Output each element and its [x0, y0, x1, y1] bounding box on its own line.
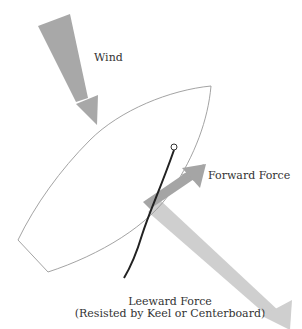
mast-icon: [171, 144, 177, 150]
diagram-svg: [0, 0, 302, 329]
wind-arrow: [38, 14, 98, 125]
wind-label: Wind: [94, 52, 123, 64]
forward-force-arrow: [143, 164, 206, 209]
leeward-force-subtitle: (Resisted by Keel or Centerboard): [60, 308, 280, 320]
forward-force-label: Forward Force: [208, 170, 290, 182]
leeward-force-label: Leeward Force (Resisted by Keel or Cente…: [60, 296, 280, 320]
diagram-canvas: Wind Forward Force Leeward Force (Resist…: [0, 0, 302, 329]
